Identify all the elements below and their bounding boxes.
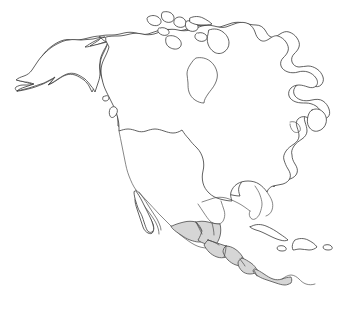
island-queen-charlotte [103, 96, 109, 101]
island-jamaica [277, 246, 286, 251]
map-figure [0, 0, 346, 320]
island-arctic-6 [195, 33, 207, 42]
north-america-map [0, 0, 346, 320]
island-puerto-rico [323, 245, 332, 250]
island-newfoundland [307, 109, 326, 131]
island-arctic-3 [174, 17, 186, 27]
